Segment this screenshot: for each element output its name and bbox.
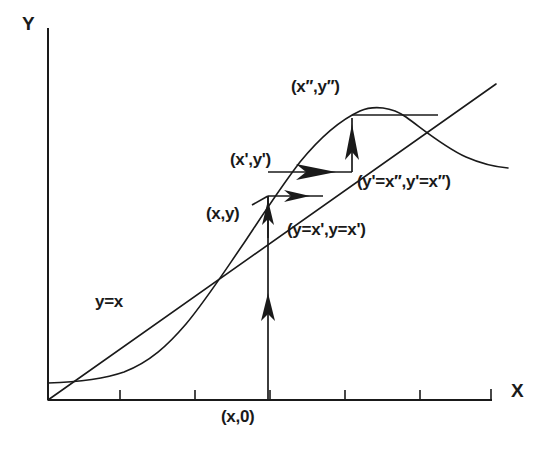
first-map-note-label: (y=x',y=x') <box>287 221 366 238</box>
cobweb-diagram: Y X y=x (x,y) (x',y') (x′′,y′′) (y=x',y=… <box>0 0 541 455</box>
cobweb-path-group <box>252 115 438 399</box>
identity-line-label: y=x <box>95 293 123 310</box>
y-axis-title: Y <box>22 14 34 33</box>
second-iterate-label: (x′′,y′′) <box>291 78 340 95</box>
diagram-canvas <box>0 0 541 455</box>
start-point-label: (x,y) <box>206 205 239 222</box>
x-axis-ticks <box>120 390 420 400</box>
first-iterate-label: (x',y') <box>230 151 271 168</box>
map-function-curve <box>48 108 508 383</box>
identity-line-y-equals-x <box>48 84 496 400</box>
x-axis-title: X <box>511 381 523 400</box>
cobweb-connector-stub <box>252 196 268 205</box>
second-map-note-label: (y'=x′′,y'=x′′) <box>357 173 451 190</box>
x-axis-start-label: (x,0) <box>221 408 254 425</box>
